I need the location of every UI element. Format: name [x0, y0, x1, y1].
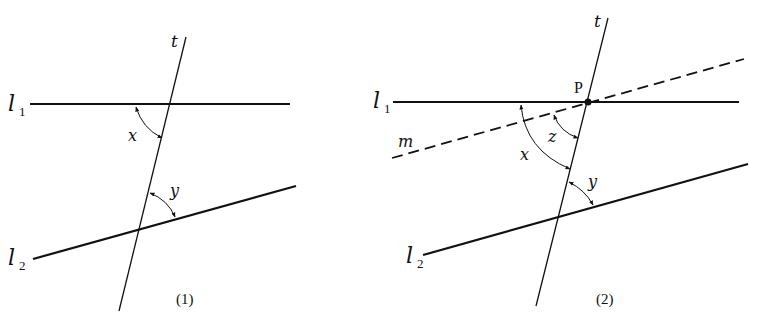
label-P: P — [574, 79, 583, 96]
line-l2 — [33, 186, 296, 259]
label-t: t — [594, 11, 601, 31]
label-l1-sub: 1 — [19, 104, 26, 119]
label-m: m — [398, 132, 413, 151]
point-P — [585, 99, 592, 106]
panel-1: l 1 l 2 t x y (1) — [8, 31, 296, 311]
label-l1: l — [373, 88, 380, 113]
label-l1: l — [8, 91, 15, 116]
label-t: t — [171, 31, 178, 51]
panel-2: P l 1 l 2 t m x z y (2) — [373, 11, 748, 308]
angle-z-label: z — [547, 127, 557, 146]
angle-z-arc — [554, 115, 578, 138]
figure: l 1 l 2 t x y (1) P l 1 l 2 t m x z y (2… — [0, 0, 763, 331]
label-l2-sub: 2 — [19, 258, 26, 273]
angle-x-label: x — [520, 145, 529, 164]
caption-2: (2) — [596, 291, 614, 308]
angle-y-label: y — [587, 172, 598, 191]
angle-x-arc — [136, 107, 162, 138]
caption-1: (1) — [176, 291, 194, 308]
label-l2: l — [406, 243, 413, 268]
angle-x-label: x — [128, 126, 137, 145]
label-l2-sub: 2 — [417, 256, 424, 271]
line-m — [392, 59, 744, 158]
label-l2: l — [8, 245, 15, 270]
line-l2 — [423, 164, 748, 255]
line-t — [536, 18, 608, 306]
line-t — [119, 37, 186, 311]
angle-y-label: y — [169, 181, 180, 200]
label-l1-sub: 1 — [384, 101, 391, 116]
